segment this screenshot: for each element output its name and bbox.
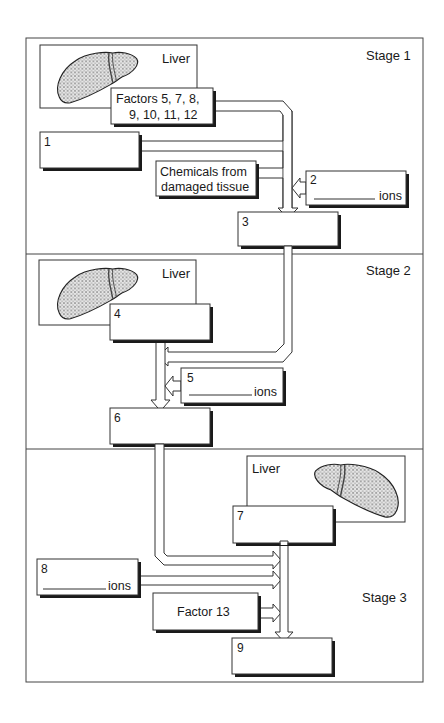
box-4-number: 4 [114,307,121,321]
factors-line-2: 9, 10, 11, 12 [129,108,198,122]
blank-box-7[interactable] [233,506,333,543]
box-2-number: 2 [310,173,317,187]
blank-box-4[interactable] [110,304,210,340]
box-5-suffix: ions [254,385,277,399]
liver-label-2: Liver [162,266,191,281]
box-8-number: 8 [41,562,48,576]
box-7-number: 7 [237,509,244,523]
box-1-number: 1 [44,135,51,149]
box-3-number: 3 [242,215,249,229]
chemicals-line-1: Chemicals from [160,165,247,179]
blank-box-6[interactable] [110,408,210,444]
stage-2-label: Stage 2 [366,263,411,278]
pipe-chemicals-to-3 [255,168,283,178]
arrow-5-to-pipe [165,376,181,396]
blank-box-9[interactable] [232,638,332,674]
pipe-8-to-trunk [137,571,281,589]
stage-3-label: Stage 3 [362,590,407,605]
chemicals-line-2: damaged tissue [161,180,249,194]
blank-box-1[interactable] [40,132,139,168]
blank-box-3[interactable] [238,212,338,246]
clotting-diagram: Stage 1 Stage 2 Stage 3 Liver Factors 5,… [0,0,444,723]
box-6-number: 6 [114,411,121,425]
box-8-suffix: ions [108,579,131,593]
box-5-number: 5 [187,371,194,385]
stage-1-label: Stage 1 [366,48,411,63]
pipe-1-to-3 [138,141,283,151]
liver-label-1: Liver [162,51,191,66]
box-9-number: 9 [237,641,244,655]
arrow-2-to-trunk [292,178,306,198]
box-2-suffix: ions [379,189,402,203]
liver-label-3: Liver [252,461,281,476]
factors-line-1: Factors 5, 7, 8, [116,92,199,106]
factor-13-label: Factor 13 [177,605,230,619]
